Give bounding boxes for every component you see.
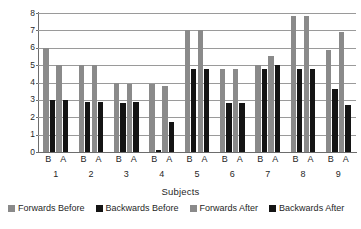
- legend-label: Backwards After: [279, 203, 344, 213]
- bar: [239, 103, 244, 152]
- x-tick-ba-labels: B A: [179, 154, 214, 165]
- bar: [133, 102, 138, 152]
- bar: [310, 69, 315, 152]
- bar: [226, 103, 231, 152]
- legend-swatch-icon: [269, 205, 276, 212]
- bar: [120, 103, 125, 152]
- x-group-6: B A6: [215, 154, 250, 180]
- x-tick-ba-labels: B A: [285, 154, 320, 165]
- x-group-8: B A8: [285, 154, 320, 180]
- y-tick-label: 1: [22, 130, 35, 139]
- chart-screenshot: Scores 012345678 B A1B A2B A3B A4B A5B A…: [0, 0, 361, 229]
- bar: [326, 50, 331, 153]
- x-group-4: B A4: [144, 154, 179, 180]
- x-tick-subject-number: 7: [250, 168, 285, 180]
- bar: [79, 65, 84, 152]
- legend-label: Forwards After: [200, 203, 259, 213]
- bar: [85, 102, 90, 152]
- bar: [198, 30, 203, 152]
- bar: [332, 89, 337, 152]
- x-tick-ba-labels: B A: [250, 154, 285, 165]
- bar: [156, 150, 161, 152]
- bar: [56, 65, 61, 152]
- legend-label: Forwards Before: [18, 203, 85, 213]
- x-tick-ba-labels: B A: [38, 154, 73, 165]
- plot-area: [38, 13, 356, 152]
- x-tick-subject-number: 9: [321, 168, 356, 180]
- x-group-3: B A3: [109, 154, 144, 180]
- bar: [149, 84, 154, 152]
- legend-label: Backwards Before: [106, 203, 179, 213]
- legend-swatch-icon: [8, 205, 15, 212]
- bar: [204, 69, 209, 152]
- x-tick-ba-labels: B A: [215, 154, 250, 165]
- legend-item: Forwards Before: [8, 203, 85, 213]
- x-tick-subject-number: 1: [38, 168, 73, 180]
- bar: [262, 69, 267, 152]
- x-group-2: B A2: [73, 154, 108, 180]
- bar: [50, 100, 55, 152]
- bar: [98, 102, 103, 152]
- gridline: [38, 13, 356, 14]
- bar: [291, 16, 296, 152]
- y-tick-label: 4: [22, 78, 35, 87]
- bar: [191, 69, 196, 152]
- y-tick-label: 8: [22, 9, 35, 18]
- bar: [297, 69, 302, 152]
- legend-item: Forwards After: [190, 203, 259, 213]
- legend-swatch-icon: [190, 205, 197, 212]
- bar: [185, 30, 190, 152]
- bar: [275, 65, 280, 152]
- x-tick-ba-labels: B A: [321, 154, 356, 165]
- bar: [127, 84, 132, 152]
- x-tick-subject-number: 8: [285, 168, 320, 180]
- x-group-7: B A7: [250, 154, 285, 180]
- x-group-1: B A1: [38, 154, 73, 180]
- x-tick-ba-labels: B A: [73, 154, 108, 165]
- bar: [63, 100, 68, 152]
- x-tick-subject-number: 3: [109, 168, 144, 180]
- bar: [114, 83, 119, 153]
- bar: [220, 69, 225, 152]
- bar: [339, 32, 344, 152]
- y-tick-label: 0: [22, 148, 35, 157]
- x-axis-line: [38, 152, 357, 153]
- x-tick-subject-number: 6: [215, 168, 250, 180]
- x-axis-group-labels: B A1B A2B A3B A4B A5B A6B A7B A8B A9: [38, 154, 356, 188]
- bar: [255, 65, 260, 152]
- bar: [268, 56, 273, 152]
- y-tick-label: 6: [22, 43, 35, 52]
- bar: [169, 122, 174, 152]
- y-tick-label: 5: [22, 61, 35, 70]
- x-axis-title: Subjects: [0, 186, 361, 197]
- legend-item: Backwards Before: [96, 203, 179, 213]
- bar: [92, 65, 97, 152]
- bar: [304, 16, 309, 152]
- x-group-5: B A5: [179, 154, 214, 180]
- bar: [233, 69, 238, 152]
- y-tick-label: 7: [22, 26, 35, 35]
- x-group-9: B A9: [321, 154, 356, 180]
- bar: [345, 105, 350, 152]
- x-tick-subject-number: 2: [73, 168, 108, 180]
- y-tick-label: 2: [22, 113, 35, 122]
- bar: [43, 48, 48, 152]
- bar: [162, 86, 167, 152]
- legend-item: Backwards After: [269, 203, 344, 213]
- x-tick-subject-number: 4: [144, 168, 179, 180]
- chart-legend: Forwards BeforeBackwards BeforeForwards …: [8, 203, 358, 213]
- x-tick-ba-labels: B A: [144, 154, 179, 165]
- y-tick-label: 3: [22, 95, 35, 104]
- x-tick-subject-number: 5: [179, 168, 214, 180]
- legend-swatch-icon: [96, 205, 103, 212]
- x-tick-ba-labels: B A: [109, 154, 144, 165]
